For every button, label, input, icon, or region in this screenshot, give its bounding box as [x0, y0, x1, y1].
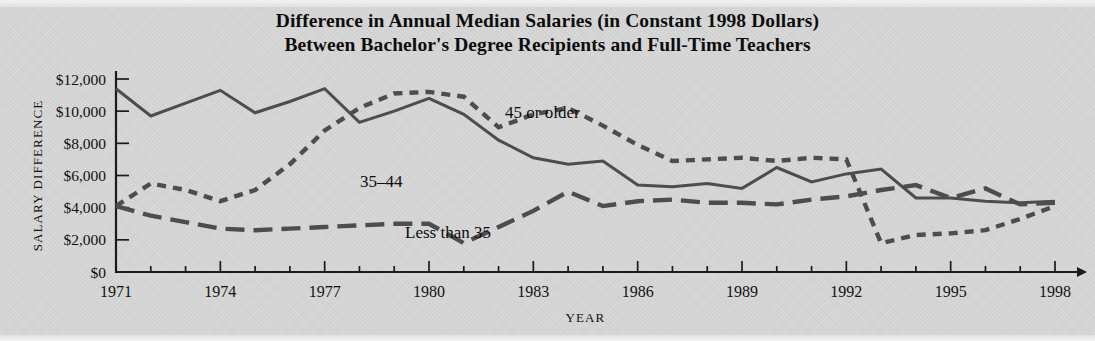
y-tick-label: $8,000: [63, 135, 106, 152]
x-axis-arrow-icon: [1077, 267, 1087, 277]
x-tick-label: 1998: [1039, 283, 1071, 300]
chart-page: Difference in Annual Median Salaries (in…: [0, 0, 1095, 341]
x-tick-label: 1986: [622, 283, 654, 300]
y-tick-label: $10,000: [56, 103, 107, 120]
x-axis-title: YEAR: [566, 310, 606, 325]
x-tick-label: 1992: [830, 283, 862, 300]
y-tick-label: $6,000: [63, 167, 106, 184]
x-tick-label: 1983: [517, 283, 549, 300]
x-tick-label: 1995: [935, 283, 967, 300]
x-tick-label: 1974: [204, 283, 236, 300]
x-tick-label: 1980: [413, 283, 445, 300]
chart-title-line-1: Difference in Annual Median Salaries (in…: [0, 9, 1095, 33]
series-annotation-mid: 35–44: [360, 172, 403, 191]
series-annotation-young: Less than 35: [405, 223, 491, 242]
y-tick-label: $4,000: [63, 199, 106, 216]
y-axis-title: SALARY DIFFERENCE: [30, 100, 45, 252]
x-tick-label: 1977: [309, 283, 341, 300]
y-tick-label: $0: [91, 264, 107, 281]
axis-lines: [116, 71, 1077, 272]
series-line-45-or-older: [116, 92, 1055, 243]
y-tick-label: $12,000: [56, 71, 107, 88]
chart-title-line-2: Between Bachelor's Degree Recipients and…: [0, 33, 1095, 57]
series-annotation-older: 45 or older: [505, 103, 580, 122]
x-tick-label: 1971: [100, 283, 132, 300]
series-line-less-than-35: [116, 185, 1055, 243]
x-tick-label: 1989: [726, 283, 758, 300]
chart-title: Difference in Annual Median Salaries (in…: [0, 9, 1095, 57]
y-tick-label: $2,000: [63, 231, 106, 248]
